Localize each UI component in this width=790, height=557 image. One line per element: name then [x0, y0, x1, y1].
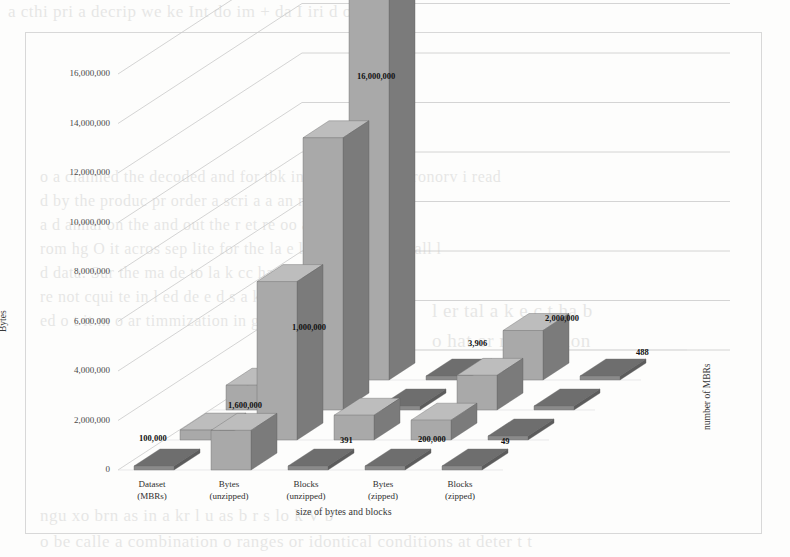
- y-axis-tick-label: 6,000,000: [36, 316, 110, 326]
- bar-value-label: 488: [636, 347, 649, 357]
- x-axis-category-label: Blocks(zipped): [420, 478, 500, 502]
- category-label-line: (zipped): [343, 490, 423, 502]
- category-label-line: Bytes: [343, 478, 423, 490]
- category-label-line: (MBRs): [112, 490, 192, 502]
- bar-value-label: 1,600,000: [228, 400, 262, 410]
- bar-value-label: 100,000: [139, 433, 167, 443]
- category-label-line: (unzipped): [189, 490, 269, 502]
- category-label-line: Blocks: [266, 478, 346, 490]
- y-axis-tick-label: 4,000,000: [36, 365, 110, 375]
- category-label-line: (unzipped): [266, 490, 346, 502]
- bar-value-label: 200,000: [418, 434, 446, 444]
- y-axis-tick-label: 2,000,000: [36, 415, 110, 425]
- depth-axis-title: number of MBRs: [702, 364, 712, 431]
- x-axis-title: size of bytes and blocks: [296, 506, 392, 517]
- bar-value-label: 391: [340, 435, 353, 445]
- y-axis-tick-label: 10,000,000: [36, 217, 110, 227]
- y-axis-title: Bytes: [0, 310, 8, 332]
- bar-value-label: 49: [501, 436, 510, 446]
- bar-value-label: 1,000,000: [292, 322, 326, 332]
- category-label-line: Blocks: [420, 478, 500, 490]
- x-axis-category-label: Dataset(MBRs): [112, 478, 192, 502]
- x-axis-category-label: Bytes(unzipped): [189, 478, 269, 502]
- category-label-line: Dataset: [112, 478, 192, 490]
- x-axis-category-label: Blocks(unzipped): [266, 478, 346, 502]
- bar-value-label: 16,000,000: [357, 71, 395, 81]
- y-axis-tick-label: 8,000,000: [36, 266, 110, 276]
- y-axis-tick-label: 14,000,000: [36, 118, 110, 128]
- y-axis-tick-label: 12,000,000: [36, 167, 110, 177]
- category-label-line: Bytes: [189, 478, 269, 490]
- bar-value-label: 2,000,000: [545, 313, 579, 323]
- category-label-line: (zipped): [420, 490, 500, 502]
- bar-chart-3d: [0, 0, 790, 557]
- y-axis-tick-label: 16,000,000: [36, 68, 110, 78]
- y-axis-tick-label: 0: [36, 464, 110, 474]
- bar-value-label: 3,906: [468, 338, 487, 348]
- x-axis-category-label: Bytes(zipped): [343, 478, 423, 502]
